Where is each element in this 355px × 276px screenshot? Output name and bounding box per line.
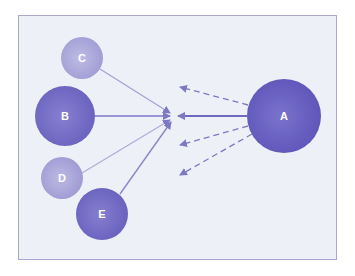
edge-a-out-2 — [180, 126, 248, 145]
node-b: B — [35, 86, 95, 146]
network-diagram: A B C D E — [0, 0, 355, 276]
edge-d-hub — [82, 120, 170, 173]
node-a-label: A — [280, 110, 288, 122]
node-d: D — [41, 157, 83, 199]
node-b-label: B — [61, 110, 69, 122]
edge-a-out-1 — [180, 87, 248, 105]
node-e: E — [76, 188, 128, 240]
node-d-label: D — [58, 172, 66, 184]
edge-c-hub — [100, 69, 170, 113]
node-c-label: C — [78, 52, 86, 64]
edges — [82, 69, 252, 194]
edge-e-hub — [120, 122, 171, 194]
node-c: C — [61, 37, 103, 79]
edge-a-out-3 — [180, 134, 252, 175]
node-a: A — [247, 79, 321, 153]
node-e-label: E — [98, 208, 105, 220]
